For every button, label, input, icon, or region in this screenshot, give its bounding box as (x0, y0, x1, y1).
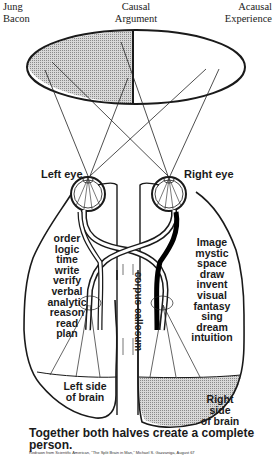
function-word: plan (32, 328, 102, 339)
visual-field-ellipse (27, 30, 245, 104)
left-eye-label: Left eye (41, 169, 83, 180)
function-word: visual (174, 290, 250, 301)
function-word: order (32, 233, 102, 244)
left-visual-field-shaded (28, 31, 133, 104)
right-eye-label: Right eye (184, 169, 234, 180)
brain-diagram (0, 0, 273, 458)
label-line: of brain (50, 392, 120, 403)
function-word: Image (174, 237, 250, 248)
function-word: verbal (32, 286, 102, 297)
function-word: intuition (174, 332, 250, 343)
citation: Redrawn from Scientific American, "The S… (29, 451, 269, 455)
right-side-of-brain-label: Right side of brain (190, 394, 250, 427)
corpus-callosum-label: corpus callosum (133, 272, 144, 352)
left-side-of-brain-label: Left side of brain (50, 381, 120, 403)
caption: Together both halves create a complete p… (29, 427, 269, 451)
right-brain-functions: Image mystic space draw invent visual fa… (174, 237, 250, 343)
left-brain-functions: order logic time write verify verbal ana… (32, 233, 102, 339)
